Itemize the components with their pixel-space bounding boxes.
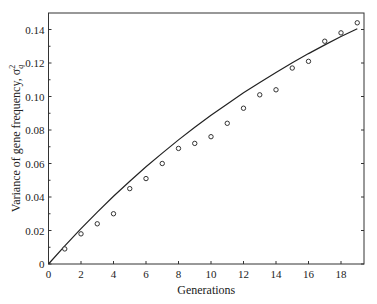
expected-curve [49, 29, 358, 264]
y-tick-label: 0.02 [25, 225, 44, 237]
x-tick-label: 0 [46, 268, 52, 280]
x-tick-label: 2 [78, 268, 84, 280]
observed-points [63, 21, 360, 252]
data-point [241, 106, 245, 110]
y-axis-title-text: Variance of gene frequency, σ [9, 68, 23, 212]
x-tick-label: 14 [271, 268, 283, 280]
y-axis-title: Variance of gene frequency, σ2q [8, 65, 25, 212]
data-point [339, 31, 343, 35]
y-tick-label: 0.04 [25, 191, 45, 203]
x-tick-label: 10 [206, 268, 218, 280]
y-axis-ticks: 00.020.040.060.080.100.120.14 [25, 24, 364, 271]
data-point [323, 39, 327, 43]
chart: 024681012141618 00.020.040.060.080.100.1… [0, 0, 377, 304]
data-point [95, 222, 99, 226]
x-tick-label: 4 [111, 268, 117, 280]
x-tick-label: 12 [238, 268, 249, 280]
x-tick-label: 16 [303, 268, 315, 280]
data-point [258, 93, 262, 97]
x-axis-title: Generations [177, 283, 235, 297]
data-point [144, 176, 148, 180]
data-point [306, 59, 310, 63]
x-tick-label: 8 [176, 268, 182, 280]
data-point [128, 186, 132, 190]
chart-svg: 024681012141618 00.020.040.060.080.100.1… [0, 0, 377, 304]
data-point [225, 121, 229, 125]
data-point [160, 161, 164, 165]
data-point [209, 135, 213, 139]
x-tick-label: 18 [336, 268, 348, 280]
plot-frame [49, 13, 365, 264]
y-tick-label: 0 [39, 258, 45, 270]
data-point [290, 66, 294, 70]
data-point [79, 232, 83, 236]
data-point [63, 247, 67, 251]
data-point [355, 21, 359, 25]
data-point [111, 212, 115, 216]
y-axis-title-subscript: q [16, 65, 25, 69]
data-point [274, 88, 278, 92]
data-point [176, 146, 180, 150]
data-point [193, 141, 197, 145]
y-tick-label: 0.14 [25, 24, 45, 36]
y-tick-label: 0.12 [25, 57, 44, 69]
x-tick-label: 6 [143, 268, 149, 280]
y-tick-label: 0.08 [25, 124, 45, 136]
y-tick-label: 0.06 [25, 158, 45, 170]
y-tick-label: 0.10 [25, 91, 45, 103]
